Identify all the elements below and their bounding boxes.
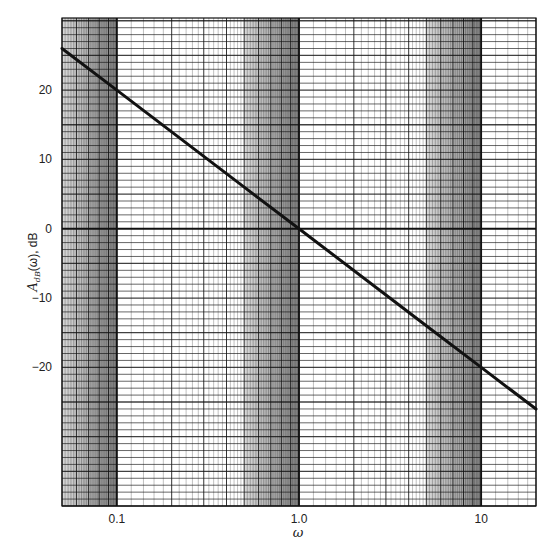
bode-magnitude-chart: 0.11.010 20100−10−20 ω AdB(ω), dB: [0, 0, 554, 553]
y-tick-label: 10: [39, 152, 53, 166]
x-tick-label: 1.0: [291, 512, 308, 526]
y-axis-title-main: A: [25, 282, 40, 292]
y-axis-title: AdB(ω), dB: [25, 232, 42, 292]
y-tick-label: 20: [39, 83, 53, 97]
y-axis-title-rest: (ω), dB: [26, 232, 40, 271]
x-tick-label: 10: [474, 512, 488, 526]
y-tick-label: 0: [45, 222, 52, 236]
shaded-bands: [62, 18, 481, 506]
x-tick-labels: 0.11.010: [108, 512, 488, 526]
x-axis-title: ω: [293, 525, 304, 540]
x-tick-label: 0.1: [108, 512, 125, 526]
y-tick-labels: 20100−10−20: [32, 83, 53, 374]
y-axis-title-sub: dB: [33, 271, 42, 282]
y-tick-label: −10: [32, 291, 53, 305]
y-tick-label: −20: [32, 360, 53, 374]
